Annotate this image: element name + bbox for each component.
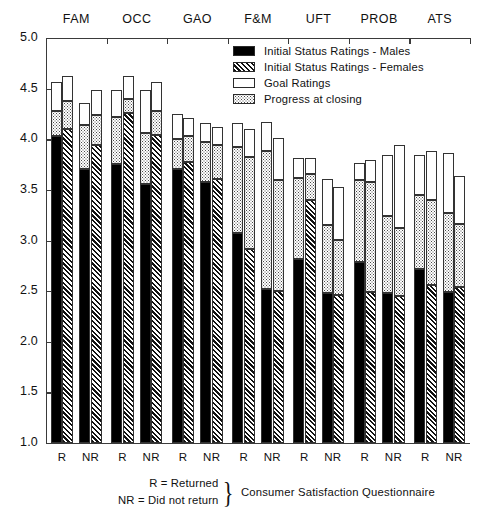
subgroup-label-r: R <box>228 451 260 463</box>
group-label-ats: ATS <box>403 12 476 26</box>
segment-goal <box>111 90 122 117</box>
bar-ats-r-males <box>414 155 425 443</box>
bar-ats-r-females <box>426 151 437 443</box>
bar-chart: 5.04.54.03.53.02.52.01.51.0 FAMOCCGAOF&M… <box>0 0 478 515</box>
segment-initial-females <box>244 249 255 443</box>
segment-goal <box>62 76 73 100</box>
y-tick-label: 4.0 <box>2 131 38 145</box>
legend-label: Goal Ratings <box>264 77 330 89</box>
segment-initial-females <box>454 287 465 443</box>
chart-legend: Initial Status Ratings - MalesInitial St… <box>233 44 424 108</box>
bar-prob-nr-males <box>382 155 393 443</box>
segment-initial-females <box>394 296 405 443</box>
legend-swatch-males <box>233 46 255 56</box>
subgroup-label-r: R <box>349 451 381 463</box>
segment-progress <box>443 213 454 292</box>
segment-progress <box>200 142 211 181</box>
segment-progress <box>261 151 272 289</box>
segment-goal <box>454 176 465 225</box>
segment-goal <box>414 155 425 194</box>
segment-goal <box>394 145 405 228</box>
y-tick-label: 2.0 <box>2 334 38 348</box>
subgroup-label-r: R <box>107 451 139 463</box>
subgroup-label-r: R <box>167 451 199 463</box>
segment-progress <box>333 240 344 295</box>
segment-goal <box>322 179 333 226</box>
legend-item-males: Initial Status Ratings - Males <box>233 44 424 58</box>
subgroup-label-r: R <box>288 451 320 463</box>
segment-goal <box>293 158 304 177</box>
bar-uft-nr-males <box>322 179 333 443</box>
segment-initial-females <box>151 135 162 443</box>
segment-initial-males <box>443 292 454 443</box>
segment-goal <box>382 155 393 216</box>
bar-fam-r-males <box>51 82 62 443</box>
segment-goal <box>200 123 211 142</box>
legend-label: Initial Status Ratings - Females <box>264 61 424 73</box>
bar-fam-r-females <box>62 76 73 443</box>
segment-progress <box>293 178 304 259</box>
segment-initial-males <box>51 136 62 443</box>
segment-goal <box>91 90 102 115</box>
chart-footnote: R = Returned NR = Did not return } Consu… <box>118 475 435 509</box>
segment-goal <box>305 158 316 173</box>
segment-goal <box>333 187 344 241</box>
segment-goal <box>232 123 243 147</box>
y-tick-label: 2.5 <box>2 283 38 297</box>
subgroup-label-r: R <box>409 451 441 463</box>
segment-progress <box>273 180 284 291</box>
segment-progress <box>212 145 223 178</box>
bar-gao-nr-females <box>212 127 223 443</box>
segment-initial-males <box>322 293 333 443</box>
subgroup-label-nr: NR <box>377 451 409 463</box>
x-axis-baseline <box>46 443 470 444</box>
segment-initial-females <box>183 162 194 443</box>
bar-ats-nr-females <box>454 176 465 443</box>
bar-f-m-nr-females <box>273 138 284 443</box>
segment-progress <box>91 115 102 145</box>
segment-goal <box>51 82 62 111</box>
segment-initial-females <box>305 200 316 443</box>
bar-occ-r-females <box>123 76 134 443</box>
segment-progress <box>140 133 151 184</box>
segment-goal <box>151 82 162 111</box>
segment-progress <box>244 157 255 248</box>
segment-initial-females <box>91 145 102 443</box>
segment-progress <box>322 225 333 293</box>
segment-progress <box>382 216 393 293</box>
segment-progress <box>426 200 437 285</box>
footnote-line-2: NR = Did not return <box>118 492 218 509</box>
segment-progress <box>51 111 62 136</box>
segment-progress <box>79 125 90 169</box>
subgroup-label-nr: NR <box>196 451 228 463</box>
x-tick-mark <box>470 38 471 44</box>
bar-prob-r-males <box>354 163 365 443</box>
bar-occ-r-males <box>111 90 122 443</box>
segment-initial-females <box>212 179 223 443</box>
y-tick-label: 1.5 <box>2 384 38 398</box>
segment-initial-females <box>426 285 437 443</box>
segment-goal <box>261 122 272 151</box>
legend-swatch-progress <box>233 94 255 104</box>
y-tick-label: 4.5 <box>2 81 38 95</box>
legend-item-progress: Progress at closing <box>233 92 424 106</box>
subgroup-label-nr: NR <box>135 451 167 463</box>
bar-uft-r-males <box>293 158 304 443</box>
segment-progress <box>454 224 465 287</box>
subgroup-label-nr: NR <box>438 451 470 463</box>
bar-fam-nr-females <box>91 90 102 443</box>
segment-initial-males <box>111 164 122 443</box>
segment-goal <box>123 76 134 98</box>
segment-initial-females <box>62 129 73 443</box>
segment-initial-males <box>200 182 211 443</box>
segment-progress <box>414 195 425 269</box>
subgroup-label-nr: NR <box>256 451 288 463</box>
bar-ats-nr-males <box>443 153 454 443</box>
segment-goal <box>443 153 454 213</box>
bar-prob-r-females <box>365 160 376 444</box>
footnote-caption: Consumer Satisfaction Questionnaire <box>241 486 435 498</box>
bar-prob-nr-females <box>394 145 405 443</box>
bar-uft-r-females <box>305 158 316 443</box>
segment-goal <box>354 163 365 180</box>
x-tick-mark <box>107 38 108 44</box>
